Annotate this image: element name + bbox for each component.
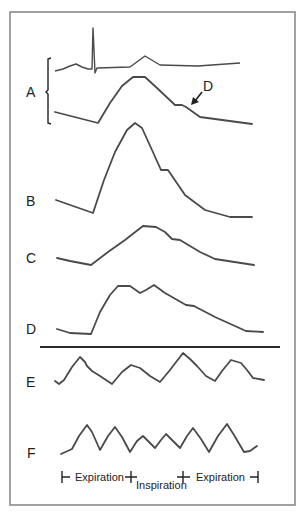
phase-label-expiration-right: Expiration	[196, 471, 245, 483]
label-D: D	[26, 321, 36, 337]
label-B: B	[26, 193, 35, 209]
respiratory-waveform-figure: A D B C D E F Expiration Inspiration Exp…	[0, 0, 306, 517]
label-C: C	[26, 250, 36, 266]
label-E: E	[26, 374, 35, 390]
label-F: F	[27, 445, 36, 461]
annotation-label-D: D	[203, 78, 213, 94]
label-A: A	[26, 84, 36, 100]
figure-frame	[10, 12, 295, 505]
phase-label-inspiration: Inspiration	[136, 479, 187, 491]
phase-label-expiration-left: Expiration	[75, 471, 124, 483]
